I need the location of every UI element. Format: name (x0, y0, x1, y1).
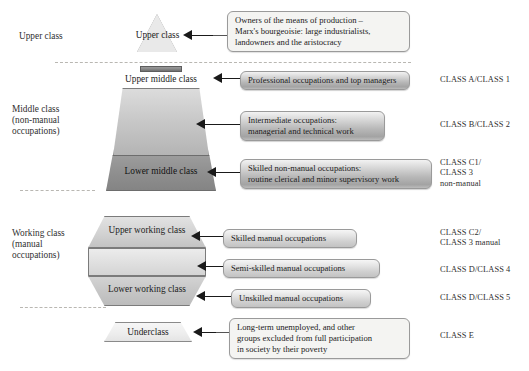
callout-upper-middle-class[interactable]: Professional occupations and top manager… (240, 71, 410, 90)
divider-upper-middle (55, 62, 411, 63)
shape-label-lower-working-class: Lower working class (88, 284, 206, 294)
shape-middle-class-upper-band (113, 88, 209, 156)
shape-label-lower-middle-class: Lower middle class (106, 166, 216, 176)
connector-line-semi-skilled-manual (206, 266, 224, 267)
arrow-icon-semi-skilled-manual (197, 261, 206, 271)
callout-upper-class[interactable]: Owners of the means of production – Marx… (227, 11, 410, 52)
shape-upper-middle-class-slab (140, 66, 182, 72)
class-code-a-1: CLASS A/CLASS 1 (440, 75, 510, 85)
arrow-icon-skilled-manual (191, 231, 200, 241)
callout-unskilled-manual[interactable]: Unskilled manual occupations (231, 289, 371, 308)
shape-label-underclass: Underclass (104, 327, 192, 337)
class-code-e: CLASS E (440, 331, 474, 341)
class-code-b-2: CLASS B/CLASS 2 (440, 120, 510, 130)
class-code-c2-3-manual: CLASS C2/ CLASS 3 manual (440, 228, 501, 249)
arrow-icon-upper-middle-class (213, 73, 222, 83)
shape-label-upper-working-class: Upper working class (88, 225, 206, 235)
arrow-icon-unskilled-manual (196, 291, 205, 301)
class-code-c1-3-non-manual: CLASS C1/ CLASS 3 non-manual (440, 158, 481, 189)
shape-label-upper-middle-class: Upper middle class (106, 74, 216, 84)
tier-left-label-upper-class: Upper class (19, 31, 63, 42)
social-class-diagram: Upper class Middle class (non-manual occ… (0, 0, 529, 371)
arrow-icon-upper-class (183, 30, 192, 40)
connector-line-intermediate (205, 124, 241, 125)
connector-line-upper-middle-class (222, 78, 242, 79)
arrow-icon-intermediate (196, 119, 205, 129)
tier-left-label-middle-class: Middle class (non-manual occupations) (12, 104, 60, 138)
arrow-icon-skilled-non-manual (207, 167, 216, 177)
callout-skilled-non-manual[interactable]: Skilled non-manual occupations: routine … (240, 159, 432, 189)
callout-skilled-manual[interactable]: Skilled manual occupations (223, 229, 357, 248)
connector-stub-underclass (216, 332, 230, 333)
connector-line-skilled-non-manual (216, 172, 241, 173)
callout-semi-skilled-manual[interactable]: Semi-skilled manual occupations (223, 259, 380, 278)
divider-working-underclass-left (20, 307, 106, 308)
class-code-d-5: CLASS D/CLASS 5 (440, 293, 510, 303)
class-code-d-4: CLASS D/CLASS 4 (440, 265, 510, 275)
connector-line-skilled-manual (200, 236, 224, 237)
arrow-icon-underclass (193, 327, 202, 337)
callout-intermediate-occupations[interactable]: Intermediate occupations: managerial and… (240, 111, 385, 141)
callout-underclass[interactable]: Long-term unemployed, and other groups e… (229, 318, 410, 359)
shape-semi-skilled-working-band (88, 248, 206, 276)
tier-left-label-working-class: Working class (manual occupations) (12, 228, 65, 262)
divider-middle-working-left (20, 190, 95, 191)
connector-line-unskilled-manual (205, 296, 232, 297)
connector-stub-upper-class (213, 35, 227, 36)
